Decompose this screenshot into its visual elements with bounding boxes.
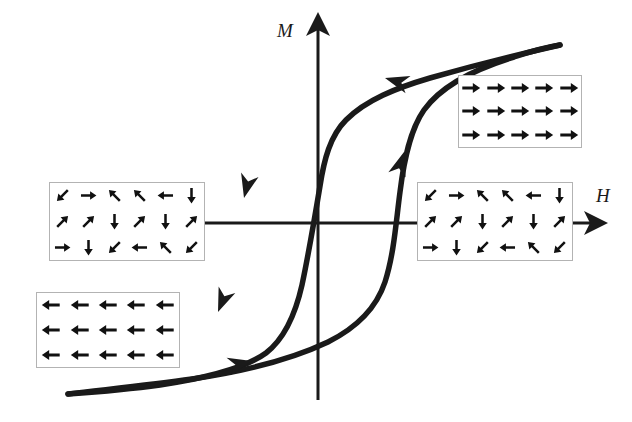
- spin-cell: [178, 234, 204, 260]
- spin-cell: [37, 293, 65, 318]
- spin-cell: [495, 183, 521, 209]
- spin-cell: [94, 293, 122, 318]
- hysteresis-figure: M H: [0, 0, 632, 422]
- spin-arrow-left: [154, 344, 176, 366]
- spin-cell: [37, 342, 65, 367]
- spin-arrow-right: [533, 100, 555, 122]
- spin-cell: [50, 234, 76, 260]
- spin-cell: [469, 234, 495, 260]
- spin-arrow-up-right: [498, 212, 517, 231]
- spin-cell: [557, 76, 581, 100]
- spin-cell: [532, 100, 556, 124]
- spin-arrow-left: [125, 344, 147, 366]
- spin-arrow-down-left: [53, 186, 72, 205]
- spin-cell: [469, 183, 495, 209]
- spin-cell: [50, 183, 76, 209]
- spin-cell: [532, 123, 556, 147]
- spin-arrow-left: [130, 238, 149, 257]
- spin-cell: [459, 100, 483, 124]
- spin-arrow-down-left: [105, 238, 124, 257]
- spin-arrow-down: [79, 238, 98, 257]
- spin-cell: [178, 183, 204, 209]
- spin-arrow-up-left: [524, 238, 543, 257]
- spin-arrow-up-left: [473, 186, 492, 205]
- spin-arrow-left: [40, 294, 62, 316]
- spin-cell: [153, 209, 179, 235]
- spin-arrow-up-right: [182, 212, 201, 231]
- spin-cell: [151, 342, 179, 367]
- spin-cell: [101, 183, 127, 209]
- spin-arrow-right: [460, 124, 482, 146]
- domain-inset-demagnetized-right: [417, 182, 573, 261]
- spin-arrow-right: [558, 124, 580, 146]
- spin-cell: [76, 183, 102, 209]
- domain-inset-saturated-positive: [458, 75, 582, 148]
- spin-arrow-left: [498, 238, 517, 257]
- spin-arrow-left: [40, 319, 62, 341]
- spin-arrow-right: [485, 77, 507, 99]
- spin-arrow-right: [485, 124, 507, 146]
- spin-arrow-down: [182, 186, 201, 205]
- spin-cell: [483, 76, 507, 100]
- spin-arrow-down-left: [182, 238, 201, 257]
- spin-arrow-down: [550, 186, 569, 205]
- spin-cell: [37, 318, 65, 343]
- spin-arrow-right: [533, 77, 555, 99]
- spin-cell: [521, 209, 547, 235]
- spin-cell: [444, 209, 470, 235]
- spin-arrow-right: [447, 186, 466, 205]
- spin-arrow-up-left: [498, 186, 517, 205]
- spin-arrow-left: [125, 319, 147, 341]
- spin-arrow-down-left: [421, 186, 440, 205]
- spin-cell: [76, 234, 102, 260]
- spin-arrow-down: [447, 238, 466, 257]
- spin-arrow-left: [125, 294, 147, 316]
- spin-arrow-right: [79, 186, 98, 205]
- spin-cell: [508, 123, 532, 147]
- spin-arrow-left: [97, 344, 119, 366]
- spin-arrow-up-left: [156, 238, 175, 257]
- spin-arrow-down: [473, 212, 492, 231]
- spin-arrow-up-right: [447, 212, 466, 231]
- spin-arrow-right: [460, 77, 482, 99]
- spin-cell: [508, 76, 532, 100]
- spin-cell: [101, 234, 127, 260]
- spin-arrow-down-left: [550, 238, 569, 257]
- spin-cell: [444, 234, 470, 260]
- spin-cell: [546, 209, 572, 235]
- spin-arrow-left: [97, 294, 119, 316]
- spin-arrow-right: [509, 100, 531, 122]
- spin-cell: [127, 234, 153, 260]
- spin-arrow-right: [460, 100, 482, 122]
- spin-arrow-down: [524, 212, 543, 231]
- spin-cell: [557, 123, 581, 147]
- spin-arrow-right: [533, 124, 555, 146]
- spin-arrow-up-right: [53, 212, 72, 231]
- spin-cell: [101, 209, 127, 235]
- spin-cell: [127, 209, 153, 235]
- spin-cell: [495, 234, 521, 260]
- descending-lower-arrow: [210, 286, 236, 315]
- spin-cell: [521, 183, 547, 209]
- spin-cell: [444, 183, 470, 209]
- spin-arrow-right: [509, 124, 531, 146]
- spin-cell: [418, 209, 444, 235]
- domain-inset-saturated-negative: [36, 292, 180, 368]
- spin-arrow-right: [485, 100, 507, 122]
- spin-cell: [546, 234, 572, 260]
- spin-cell: [50, 209, 76, 235]
- spin-cell: [122, 318, 150, 343]
- spin-arrow-up-left: [105, 186, 124, 205]
- spin-cell: [151, 318, 179, 343]
- spin-arrow-down: [105, 212, 124, 231]
- spin-cell: [459, 123, 483, 147]
- descending-steep-arrow: [235, 173, 258, 201]
- spin-arrow-left: [40, 344, 62, 366]
- spin-cell: [151, 293, 179, 318]
- spin-cell: [153, 183, 179, 209]
- spin-cell: [122, 293, 150, 318]
- spin-cell: [483, 123, 507, 147]
- spin-arrow-left: [69, 344, 91, 366]
- spin-cell: [94, 318, 122, 343]
- spin-cell: [76, 209, 102, 235]
